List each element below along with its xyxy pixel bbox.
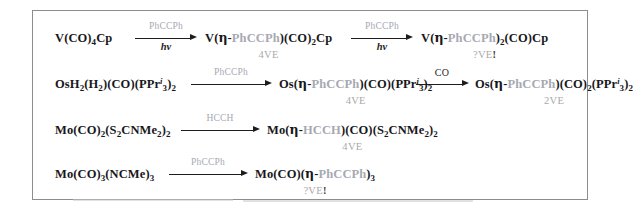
formula-sub: 3 — [150, 173, 155, 183]
formula-part: (PPr — [592, 77, 617, 91]
product-formula: V(η-PhCCPh)2(CO)Cp ?VE! — [421, 29, 548, 61]
ligand-label: PhCCPh — [508, 77, 556, 91]
formula-part: V( — [421, 31, 434, 45]
reaction-row: Mo(CO)3(NCMe)3 PhCCPh Mo(CO)(η-PhCCPh)3 … — [33, 153, 587, 199]
arrow-reagent-label: PhCCPh — [169, 157, 247, 167]
arrow-head-icon — [406, 34, 413, 40]
arrow-reagent-label: PhCCPh — [135, 21, 197, 31]
reaction-arrow: PhCCPh — [191, 63, 271, 103]
product-formula: Os(η-PhCCPh)(CO)(PPri3)2 4VE — [279, 75, 432, 107]
arrow-head-icon — [265, 80, 272, 86]
arrow-line — [416, 84, 462, 85]
arrow-head-icon — [462, 80, 469, 86]
arrow-head-icon — [253, 126, 260, 132]
arrow-line — [181, 130, 253, 131]
scan-artifact — [243, 200, 473, 202]
product-formula: V(η-PhCCPh)(CO)2Cp 4VE — [205, 29, 332, 61]
ve-value: ?VE — [473, 49, 493, 60]
product-formula: Os(η-PhCCPh)(CO)2(PPri3)2 2VE — [475, 75, 633, 107]
product-formula: Mo(η-HCCH)(CO)(S2CNMe2)2 4VE — [267, 121, 438, 153]
formula-part: Os( — [475, 77, 494, 91]
eta-symbol: η — [218, 30, 227, 45]
arrow-reagent-label: PhCCPh — [191, 67, 271, 77]
formula-sub: 3 — [371, 173, 376, 183]
formula-part: V(CO) — [55, 31, 92, 45]
formula-part: Mo(CO)( — [255, 167, 305, 181]
eta-symbol: η — [494, 76, 503, 91]
ligand-label: PhCCPh — [232, 31, 280, 45]
reaction-row: Mo(CO)2(S2CNMe2)2 HCCH Mo(η-HCCH)(CO)(S2… — [33, 109, 587, 155]
reaction-arrow: PhCCPh hv — [351, 17, 413, 57]
formula-part: Os( — [279, 77, 298, 91]
ligand-label: PhCCPh — [312, 77, 360, 91]
formula-part: (H — [84, 77, 98, 91]
formula-part: (S — [105, 123, 116, 137]
formula-part: (CO)Cp — [505, 31, 549, 45]
formula-part: OsH — [55, 77, 80, 91]
ve-value: ?VE — [303, 185, 323, 196]
reaction-row: V(CO)4Cp PhCCPh hv V(η-PhCCPh)(CO)2Cp 4V… — [33, 17, 587, 63]
reaction-arrow: HCCH — [181, 109, 259, 149]
formula-part: (NCMe) — [105, 167, 149, 181]
arrow-line — [169, 174, 241, 175]
arrow-line — [135, 38, 190, 39]
arrow-head-icon — [241, 170, 248, 176]
reaction-arrow: PhCCPh hv — [135, 17, 197, 57]
electron-count-label: 4VE — [279, 96, 432, 107]
reactant-formula: V(CO)4Cp — [55, 29, 112, 45]
ve-exclamation: ! — [323, 185, 327, 196]
reactant-formula: OsH2(H2)(CO)(PPri3)2 — [55, 75, 176, 91]
electron-count-label: ?VE! — [421, 50, 548, 61]
reaction-row: OsH2(H2)(CO)(PPri3)2 PhCCPh Os(η-PhCCPh)… — [33, 63, 587, 109]
formula-part: Mo( — [267, 123, 290, 137]
scan-artifact — [73, 199, 233, 201]
reactant-formula: Mo(CO)2(S2CNMe2)2 — [55, 121, 171, 137]
arrow-reagent-label: HCCH — [181, 113, 259, 123]
electron-count-label: 2VE — [475, 96, 633, 107]
arrow-reagent-label: CO — [416, 67, 468, 78]
formula-part: Cp — [96, 31, 112, 45]
formula-part: V( — [205, 31, 218, 45]
arrow-head-icon — [190, 34, 197, 40]
ligand-label: PhCCPh — [318, 167, 366, 181]
formula-part: Mo(CO) — [55, 123, 101, 137]
arrow-condition-label: hv — [135, 41, 197, 52]
formula-sub: 2 — [166, 129, 171, 139]
ligand-label: PhCCPh — [448, 31, 496, 45]
eta-symbol: η — [298, 76, 307, 91]
formula-part: )(CO)(S — [341, 123, 384, 137]
electron-count-label: ?VE! — [255, 186, 375, 197]
formula-sub: 2 — [628, 83, 633, 93]
electron-count-label: 4VE — [205, 50, 332, 61]
formula-sub: 2 — [433, 129, 438, 139]
formula-sub: 2 — [171, 83, 176, 93]
formula-part: Cp — [316, 31, 332, 45]
formula-part: )(CO) — [555, 77, 587, 91]
formula-part: Mo(CO) — [55, 167, 101, 181]
formula-part: CNMe — [389, 123, 425, 137]
ve-exclamation: ! — [493, 49, 497, 60]
eta-symbol: η — [290, 122, 299, 137]
reaction-arrow: PhCCPh — [169, 153, 247, 193]
reactant-formula: Mo(CO)3(NCMe)3 — [55, 165, 154, 181]
product-formula: Mo(CO)(η-PhCCPh)3 ?VE! — [255, 165, 375, 197]
eta-symbol: η — [434, 30, 443, 45]
formula-part: )(CO) — [280, 31, 312, 45]
ligand-label: HCCH — [303, 123, 341, 137]
formula-part: )(CO)(PPr — [103, 77, 160, 91]
arrow-condition-label: hv — [351, 41, 413, 52]
reaction-scheme-frame: V(CO)4Cp PhCCPh hv V(η-PhCCPh)(CO)2Cp 4V… — [32, 10, 588, 200]
arrow-reagent-label: PhCCPh — [351, 21, 413, 31]
arrow-line — [351, 38, 406, 39]
arrow-line — [191, 84, 265, 85]
electron-count-label: 4VE — [267, 142, 438, 153]
formula-part: CNMe — [121, 123, 157, 137]
reaction-arrow: CO — [416, 63, 468, 103]
eta-symbol: η — [305, 166, 314, 181]
formula-part: )(CO)(PPr — [359, 77, 416, 91]
